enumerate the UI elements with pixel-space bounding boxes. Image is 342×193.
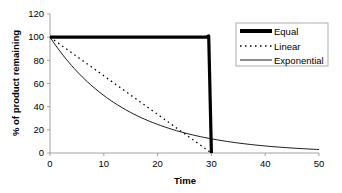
x-tick-label: 40 [260,158,271,169]
y-tick-label: 0 [39,147,44,158]
y-tick-label: 60 [33,78,44,89]
y-tick-label: 20 [33,124,44,135]
legend-label-equal: Equal [274,26,298,37]
y-axis-title: % of product remaining [10,30,21,136]
legend-label-exponential: Exponential [274,55,324,66]
x-tick-label: 20 [152,158,163,169]
y-tick-label: 120 [28,8,44,19]
chart-svg: 02040608010012001020304050 Equal Linear … [0,0,342,193]
y-tick-label: 80 [33,55,44,66]
legend: Equal Linear Exponential [236,23,328,66]
x-tick-label: 50 [314,158,325,169]
series-line-linear [50,37,211,153]
y-tick-label: 40 [33,101,44,112]
legend-label-linear: Linear [274,41,300,52]
series-line-equal [50,36,211,153]
y-tick-label: 100 [28,31,44,42]
x-tick-label: 30 [206,158,217,169]
x-tick-label: 10 [99,158,110,169]
x-tick-label: 0 [47,158,52,169]
x-axis-title: Time [174,175,196,186]
chart: 02040608010012001020304050 Equal Linear … [0,0,342,193]
